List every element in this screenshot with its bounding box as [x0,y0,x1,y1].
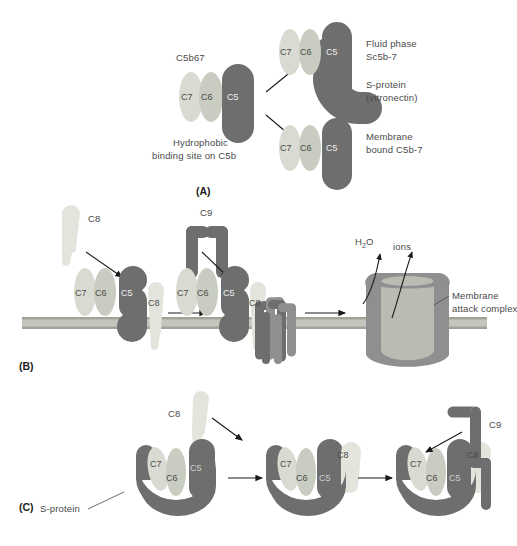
c8-label-b2: C8 [249,298,261,308]
membrane-bound-label-line1: Membrane [366,131,413,143]
c6-label-a: C6 [201,92,213,102]
water-label: H2O [355,236,374,251]
c9-free-label-c: C9 [489,419,501,431]
c7-label-b2: C7 [177,288,189,298]
c8-free-shape [62,205,80,266]
panel-b-label: (B) [19,360,34,372]
mac-inner-shape [381,278,434,360]
c5-subunit-shape [222,64,254,143]
c9-poly-4-bend-shape [278,303,296,312]
c6-subunit-shape-c3 [426,448,446,496]
sprotein-label-line2-a: (vitronectin) [366,92,418,104]
c7-label-a-fluid: C7 [280,47,292,57]
panel-a-label: (A) [196,185,211,197]
c5-subunit-shape-b2 [219,266,249,342]
c6-label-a-fluid: C6 [300,47,312,57]
c7-label-c3: C7 [410,459,422,469]
sprotein-label-c: S-protein [40,503,80,515]
c8-free-label-b: C8 [88,213,100,225]
c6-label-b1: C6 [95,288,107,298]
panel-c-label: (C) [19,501,34,513]
hydrophobic-note-line1: Hydrophobic [173,137,228,149]
hydrophobic-note-line2: binding site on C5b [152,150,236,162]
c7-label-c2: C7 [280,459,292,469]
c5b67-complex [179,64,254,143]
c5-subunit-shape-mb [322,118,352,190]
membrane-complex-2 [176,266,296,364]
c7-label-a-mb: C7 [280,143,292,153]
c6-label-c1: C6 [166,473,178,483]
c6-label-b2: C6 [197,288,209,298]
membrane-bound-complex [279,118,352,190]
c9-polymer-cluster [255,297,296,364]
c9-free-label-b: C9 [200,207,212,219]
c7-label-a: C7 [181,92,193,102]
c5-label-c1: C5 [190,463,202,473]
c9-poly-5-shape [262,312,270,364]
c5-subunit-shape-fluid [322,22,352,103]
membrane-complex-1 [74,266,164,350]
c5-label-a: C5 [227,92,239,102]
c8-label-c2: C8 [337,450,349,460]
c8-free-label-c: C8 [168,408,180,420]
c6-label-a-mb: C6 [300,143,312,153]
c7-label-c1: C7 [150,459,162,469]
sprotein-leader-line [88,492,124,509]
c7-label-b1: C7 [75,288,87,298]
c5-label-c2: C5 [319,473,331,483]
c5-label-c3: C5 [449,473,461,483]
panel-c-graphics [88,391,491,516]
c5-label-b1: C5 [121,288,133,298]
c5-label-a-mb: C5 [326,143,338,153]
mac-label-line2: attack complex [452,303,517,315]
c6-label-c2: C6 [296,473,308,483]
fluid-phase-label-line2: Sc5b-7 [366,51,397,63]
c5b67-title: C5b67 [176,52,205,64]
c5-subunit-shape-b1 [117,266,147,342]
c9-poly-6-shape [274,314,282,364]
c6-subunit-shape-c1 [166,448,186,496]
mac-label-line1: Membrane [452,290,499,302]
c5-label-b2: C5 [223,288,235,298]
ions-label: ions [393,241,411,253]
c6-label-c3: C6 [426,473,438,483]
arrow-c-c8 [212,418,242,440]
membrane-bound-label-line2: bound C5b-7 [366,144,423,156]
sprotein-label-line1-a: S-protein [366,79,406,91]
panel-b-graphics [22,205,487,367]
c6-subunit-shape-c2 [296,448,316,496]
mac-pore [365,273,449,367]
fluid-phase-label-line1: Fluid phase [366,38,417,50]
c8-label-b1: C8 [148,298,160,308]
mac-lumen-shape [382,276,434,286]
c8-subunit-shape-b1 [148,282,164,350]
c5-label-a-fluid: C5 [326,47,338,57]
c8-label-c3: C8 [467,450,479,460]
